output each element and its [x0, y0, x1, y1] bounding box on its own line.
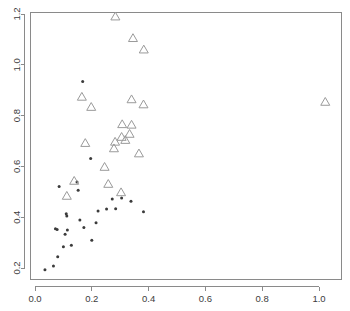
data-point-dot [64, 233, 67, 236]
x-axis-tick-label: 0.2 [85, 293, 98, 304]
data-point-dot [114, 207, 117, 210]
data-point-dot [97, 210, 100, 213]
y-axis-tick-label: 1.0 [11, 58, 22, 71]
data-point-dot [82, 226, 85, 229]
y-axis-tick-label: 0.6 [11, 160, 22, 173]
y-axis-tick-label: 0.8 [11, 109, 22, 122]
data-point-dot [89, 157, 92, 160]
data-point-dot [120, 196, 123, 199]
x-axis-tick-label: 0.4 [142, 293, 155, 304]
data-point-dot [66, 228, 69, 231]
data-point-dot [111, 197, 114, 200]
data-point-dot [56, 228, 59, 231]
plot-background [0, 0, 350, 311]
data-point-dot [52, 264, 55, 267]
data-point-dot [78, 218, 81, 221]
data-point-dot [105, 208, 108, 211]
y-axis-tick-label: 0.4 [11, 211, 22, 224]
x-axis-tick-label: 0.0 [28, 293, 41, 304]
data-point-dot [62, 245, 65, 248]
data-point-dot [90, 239, 93, 242]
data-point-dot [142, 210, 145, 213]
data-point-dot [95, 221, 98, 224]
data-point-dot [65, 214, 68, 217]
data-point-dot [56, 255, 59, 258]
scatter-plot-figure: 0.00.20.40.60.81.0 0.20.40.60.81.01.2 [0, 0, 350, 311]
scatter-plot-canvas: 0.00.20.40.60.81.0 0.20.40.60.81.01.2 [0, 0, 350, 311]
x-axis-tick-label: 0.8 [256, 293, 269, 304]
x-axis-tick-label: 0.6 [199, 293, 212, 304]
y-axis-tick-label: 0.2 [11, 261, 22, 274]
data-point-dot [70, 244, 73, 247]
data-point-dot [58, 185, 61, 188]
x-axis-tick-label: 1.0 [312, 293, 325, 304]
data-point-dot [77, 189, 80, 192]
data-point-dot [129, 200, 132, 203]
data-point-dot [81, 80, 84, 83]
y-axis-tick-label: 1.2 [11, 7, 22, 20]
data-point-dot [43, 268, 46, 271]
